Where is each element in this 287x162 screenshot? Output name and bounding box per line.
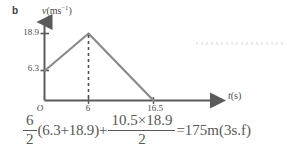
figure-container: b v(ms−1) t(s) 18.9 6.3 O 6 16.5 (0, 0, 287, 162)
fraction-numerator: 10.5×18.9 (108, 113, 175, 129)
fraction-6-over-2: 6 2 (23, 113, 37, 148)
plus-operator: + (99, 122, 107, 139)
result-value: 175m (185, 122, 219, 139)
area-calculation-equation: 6 2 (6.3+18.9) + 10.5×18.9 2 = 175m (3s.… (22, 113, 251, 148)
velocity-line (45, 34, 154, 101)
result-precision-note: (3s.f) (219, 122, 251, 139)
page-edge-artifact (0, 155, 287, 162)
fraction-product-over-2: 10.5×18.9 2 (108, 113, 175, 148)
sum-term-parenthesized: (6.3+18.9) (38, 122, 99, 139)
scan-artifact-dotted-line (196, 42, 284, 45)
equals-operator: = (176, 122, 184, 139)
fraction-numerator: 6 (23, 113, 37, 129)
fraction-denominator: 2 (23, 132, 37, 148)
fraction-denominator: 2 (135, 132, 149, 148)
